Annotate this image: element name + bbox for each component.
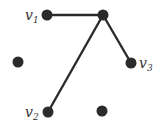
label-v1: v1 (25, 7, 39, 25)
node-v2 (43, 107, 54, 118)
edge-hub-v3 (103, 15, 131, 63)
edge-hub-v2 (48, 15, 103, 112)
label-v2: v2 (25, 104, 39, 122)
node-left (13, 57, 24, 68)
node-bottom (97, 106, 108, 117)
graph-diagram: v1 v3 v2 (0, 0, 164, 129)
node-hub (98, 10, 109, 21)
node-v3 (126, 58, 137, 69)
label-v3: v3 (139, 55, 153, 73)
node-v1 (42, 10, 53, 21)
